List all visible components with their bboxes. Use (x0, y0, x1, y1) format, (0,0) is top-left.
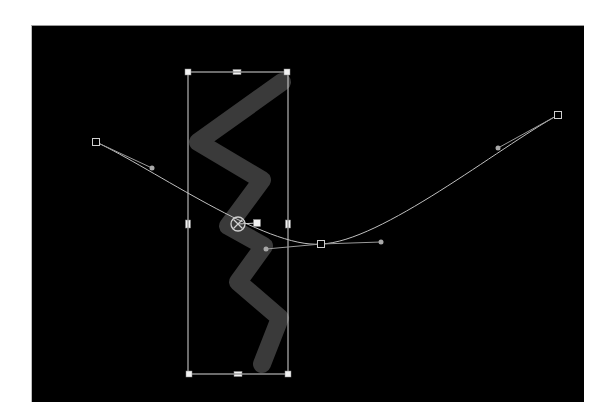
bbox-handle-bottom-right[interactable] (285, 371, 291, 377)
bbox-handle-top-right[interactable] (284, 69, 290, 75)
motion-path-handles (93, 112, 562, 252)
bezier-handle-knob[interactable] (150, 166, 155, 171)
motion-path-curve[interactable] (96, 115, 558, 244)
bezier-handle-line (498, 115, 558, 148)
bbox-handle-bottom-left[interactable] (186, 371, 192, 377)
brush-stroke-shape[interactable] (198, 82, 282, 364)
canvas-overlay (0, 0, 602, 420)
keyframe-point-2[interactable] (318, 241, 325, 248)
bezier-handle-knob[interactable] (264, 247, 269, 252)
keyframe-point-3[interactable] (555, 112, 562, 119)
bezier-handle-knob[interactable] (496, 146, 501, 151)
bezier-handle-line (266, 244, 321, 249)
bbox-handle-top-left[interactable] (185, 69, 191, 75)
bezier-handle-line (96, 142, 152, 168)
keyframe-point-1[interactable] (93, 139, 100, 146)
bezier-handle-knob[interactable] (379, 240, 384, 245)
anchor-rotation-handle[interactable] (254, 220, 261, 227)
